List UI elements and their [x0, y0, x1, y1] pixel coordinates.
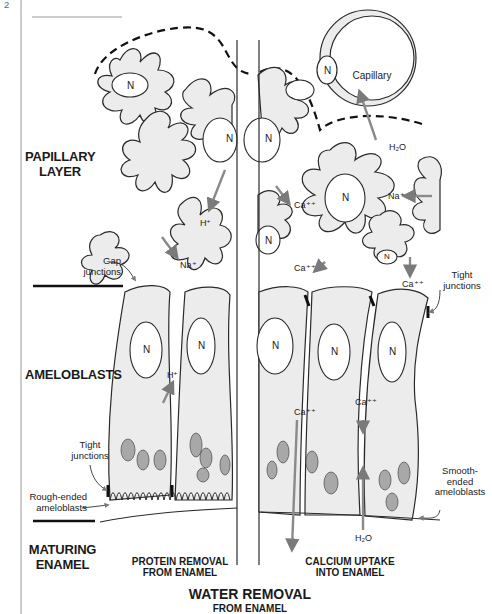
callout-rough-ended: Rough-ended ameloblasts	[27, 492, 87, 513]
ion-na-left: Na⁺	[180, 260, 197, 270]
ion-ca-lower: Ca⁺⁺	[294, 263, 316, 273]
nucleus-label: N	[265, 133, 272, 144]
label-maturing-enamel: MATURING ENAMEL	[25, 543, 100, 572]
tight-junction-right-leader	[430, 290, 440, 312]
ion-h-plus-ameloblast: H⁺	[167, 370, 179, 380]
callout-capillary: Capillary	[347, 70, 397, 81]
page-marker: 2	[4, 0, 9, 11]
ion-h-plus-papillary: H⁺	[200, 218, 212, 228]
nucleus-label: N	[331, 346, 338, 357]
ion-h2o-bottom: H₂O	[355, 533, 372, 543]
nucleus-label: N	[272, 340, 279, 351]
nucleus-label: N	[143, 344, 150, 355]
papillary-cells-left	[82, 49, 235, 284]
callout-smooth-ended: Smooth- ended ameloblasts	[428, 466, 492, 498]
ion-ca-cell-right: Ca⁺⁺	[355, 397, 377, 407]
ameloblast-cells-left	[109, 286, 233, 500]
ion-ca-upper: Ca⁺⁺	[294, 200, 316, 210]
ion-h2o-capillary: H₂O	[389, 142, 406, 152]
caption-calcium-uptake: CALCIUM UPTAKE INTO ENAMEL	[290, 556, 410, 578]
callout-gap-junctions: Gap junctions	[75, 256, 121, 277]
nucleus-label: N	[324, 65, 331, 76]
caption-water-removal-sub: FROM ENAMEL	[190, 603, 310, 614]
arrow-h-plus-papillary	[210, 170, 225, 208]
label-ameloblasts: AMELOBLASTS	[25, 368, 115, 383]
arrow-ca-lower	[316, 262, 325, 270]
capillary	[317, 10, 416, 106]
nucleus-label: N	[226, 133, 233, 144]
nucleus-label: N	[265, 235, 272, 246]
caption-protein-removal: PROTEIN REMOVAL FROM ENAMEL	[120, 556, 240, 578]
ion-ca-cell-left: Ca⁺⁺	[294, 407, 316, 417]
ion-ca-right-top: Ca⁺⁺	[402, 279, 424, 289]
caption-water-removal: WATER REMOVAL	[180, 587, 320, 603]
nucleus-label: N	[127, 80, 134, 91]
callout-tight-junctions-left: Tight junctions	[65, 440, 115, 461]
tight-junction-left-leader	[90, 465, 106, 490]
enamel-surface-left	[100, 508, 237, 522]
nucleus-label: N	[198, 340, 205, 351]
smooth-ended-leader	[420, 510, 440, 518]
ameloblast-diagram	[0, 0, 492, 614]
nucleus-label: N	[384, 252, 390, 261]
ion-na-right: Na⁺	[388, 191, 405, 201]
label-papillary-layer: PAPILLARY LAYER	[25, 150, 95, 179]
nucleus-label: N	[389, 346, 396, 357]
nucleus-label: N	[342, 192, 349, 203]
callout-tight-junctions-right: Tight junctions	[437, 270, 487, 291]
